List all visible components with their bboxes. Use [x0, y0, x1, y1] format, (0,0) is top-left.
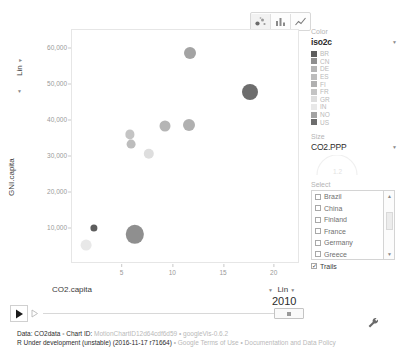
- legend-swatch: [311, 104, 317, 110]
- footer-line-1: Data: CO2data • Chart ID: MotionChartID1…: [17, 329, 336, 338]
- scroll-up-icon[interactable]: ▲: [384, 191, 395, 201]
- line-chart-icon[interactable]: [291, 14, 310, 29]
- legend-label: BR: [320, 50, 329, 57]
- legend-swatch: [311, 89, 317, 95]
- select-scrollbar[interactable]: ▲ ▼: [383, 191, 394, 259]
- select-item-label: Germany: [324, 239, 353, 246]
- timeline-track[interactable]: [43, 313, 295, 314]
- x-scale-selector[interactable]: ▼ Lin ▼: [268, 285, 295, 294]
- chevron-down-icon: ▼: [392, 144, 397, 150]
- footer-text[interactable]: googleVis-0.6.2: [183, 330, 228, 337]
- footer-text: Data: CO2data: [17, 330, 60, 337]
- legend-swatch: [311, 119, 317, 125]
- bubble-in[interactable]: [81, 240, 92, 251]
- legend-swatch: [311, 74, 317, 80]
- motion-chart: 60,00050,00040,00030,00020,00010,000 510…: [0, 0, 400, 325]
- y-tick-label: 10,000: [47, 224, 67, 231]
- bar-chart-icon[interactable]: [271, 14, 291, 29]
- bubble-es[interactable]: [126, 140, 135, 149]
- select-checkbox[interactable]: [315, 205, 321, 211]
- trails-toggle[interactable]: Trails: [311, 263, 397, 270]
- select-checkbox[interactable]: [315, 251, 321, 257]
- legend-swatch: [311, 51, 317, 57]
- select-listbox[interactable]: BrazilChinaFinlandFranceGermanyGreece ▲ …: [311, 190, 395, 260]
- select-checkbox[interactable]: [315, 228, 321, 234]
- x-scale-label: Lin: [277, 285, 288, 294]
- select-item-china[interactable]: China: [312, 202, 383, 214]
- legend-item-no[interactable]: NO: [311, 111, 397, 119]
- x-tick-label: 15: [219, 269, 226, 276]
- footer-text: R Under development (unstable) (2016-11-…: [17, 339, 172, 346]
- bubble-no[interactable]: [184, 47, 196, 59]
- x-axis-options-icon[interactable]: ▼: [268, 287, 273, 293]
- footer-text: Chart ID:: [66, 330, 94, 337]
- bubble-fi[interactable]: [183, 119, 195, 131]
- legend-swatch: [311, 58, 317, 64]
- select-checkbox[interactable]: [315, 217, 321, 223]
- legend-item-cn[interactable]: CN: [311, 58, 397, 66]
- current-year-label: 2010: [272, 295, 296, 307]
- legend-swatch: [311, 66, 317, 72]
- scrollbar-thumb[interactable]: [386, 212, 393, 230]
- legend-label: CN: [320, 58, 329, 65]
- y-tick-label: 30,000: [47, 152, 67, 159]
- footer-text[interactable]: Google Terms of Use: [178, 339, 239, 346]
- plot-area[interactable]: [71, 29, 299, 263]
- bubble-cn[interactable]: [126, 225, 144, 243]
- select-item-label: Finland: [324, 216, 347, 223]
- select-item-label: France: [324, 228, 346, 235]
- bubble-br[interactable]: [91, 224, 98, 231]
- select-item-greece[interactable]: Greece: [312, 248, 383, 260]
- size-gauge[interactable]: 1.2: [311, 155, 397, 179]
- color-field-value: iso2c: [311, 37, 332, 47]
- select-checkbox[interactable]: [315, 194, 321, 200]
- timeline-handle[interactable]: [274, 308, 304, 319]
- legend-swatch: [311, 81, 317, 87]
- settings-button[interactable]: [367, 316, 380, 334]
- select-section-label: Select: [311, 181, 397, 188]
- legend-item-es[interactable]: ES: [311, 73, 397, 81]
- footer-text[interactable]: MotionChartID12d64cdf6d59: [94, 330, 177, 337]
- play-icon: [15, 309, 24, 319]
- scatter-chart-glyph: [254, 16, 267, 27]
- legend-label: GR: [320, 96, 330, 103]
- x-axis-ticks: 5101520: [71, 264, 299, 278]
- bubble-fr[interactable]: [125, 130, 134, 139]
- legend-item-fi[interactable]: FI: [311, 80, 397, 88]
- legend-label: FR: [320, 88, 329, 95]
- select-item-brazil[interactable]: Brazil: [312, 191, 383, 203]
- legend-item-fr[interactable]: FR: [311, 88, 397, 96]
- bubble-de[interactable]: [160, 121, 171, 132]
- legend-item-in[interactable]: IN: [311, 103, 397, 111]
- scroll-down-icon[interactable]: ▼: [384, 249, 395, 259]
- x-tick-label: 5: [120, 269, 124, 276]
- bubble-gr[interactable]: [144, 149, 154, 159]
- size-field-selector[interactable]: CO2.PPP ▼: [311, 142, 397, 152]
- x-axis-title: CO2.capita: [52, 285, 92, 294]
- trails-checkbox[interactable]: [311, 263, 317, 269]
- select-item-germany[interactable]: Germany: [312, 237, 383, 249]
- y-scale-selector[interactable]: Lin ▼: [15, 58, 24, 76]
- select-item-finland[interactable]: Finland: [312, 214, 383, 226]
- legend-swatch: [311, 112, 317, 118]
- color-field-selector[interactable]: iso2c ▼: [311, 37, 397, 47]
- legend-item-us[interactable]: US: [311, 118, 397, 126]
- footer-text[interactable]: Documentation and Data Policy: [245, 339, 336, 346]
- chevron-down-icon: ▼: [290, 287, 295, 293]
- chevron-down-icon: ▼: [17, 58, 23, 63]
- select-checkbox[interactable]: [315, 240, 321, 246]
- select-item-france[interactable]: France: [312, 225, 383, 237]
- legend-item-br[interactable]: BR: [311, 50, 397, 58]
- legend-item-de[interactable]: DE: [311, 65, 397, 73]
- scatter-chart-icon[interactable]: [251, 14, 271, 29]
- y-axis-options-icon[interactable]: ▼: [17, 88, 22, 94]
- y-scale-label: Lin: [15, 65, 24, 76]
- y-axis-ticks: 60,00050,00040,00030,00020,00010,000: [24, 29, 71, 263]
- playback-speed-button[interactable]: [30, 307, 41, 319]
- legend-item-gr[interactable]: GR: [311, 96, 397, 104]
- chart-controls-panel: Color iso2c ▼ BRCNDEESFIFRGRINNOUS Size …: [311, 28, 397, 270]
- play-button[interactable]: [10, 305, 28, 322]
- chart-footer: Data: CO2data • Chart ID: MotionChartID1…: [17, 329, 336, 347]
- select-item-label: Brazil: [324, 193, 342, 200]
- bubble-us[interactable]: [242, 84, 258, 100]
